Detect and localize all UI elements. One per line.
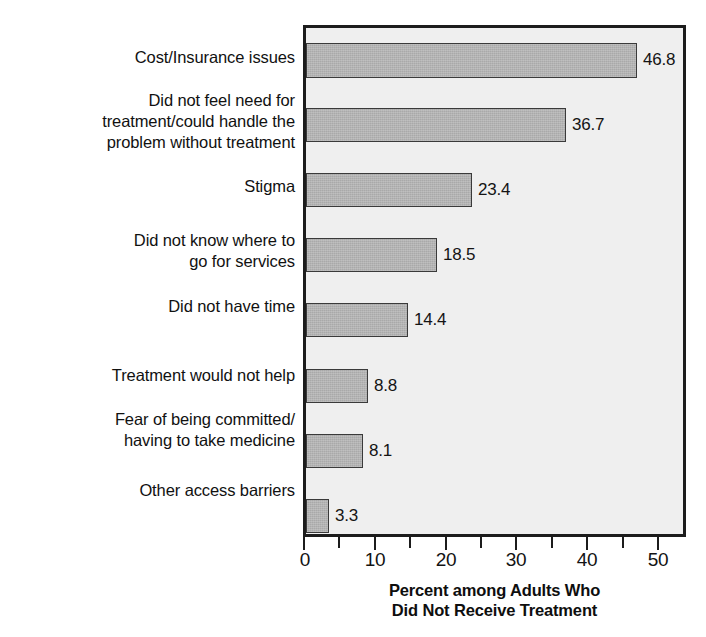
x-ticklabel-30: 30: [506, 549, 527, 571]
bar-value-label: 36.7: [572, 115, 604, 135]
category-label-did-not-know-where: Did not know where to go for services: [0, 230, 295, 272]
plot-inner: 46.8 36.7 23.4 18.5 14.4 8.8 8.1 3.3: [306, 28, 683, 534]
bar-fear-of-being-committed: [306, 434, 363, 468]
bar-value-label: 14.4: [414, 310, 446, 330]
x-tick-35: [551, 537, 553, 548]
category-label-stigma: Stigma: [0, 176, 295, 197]
bar-cost-insurance-issues: [306, 43, 637, 78]
category-label-did-not-have-time: Did not have time: [0, 296, 295, 317]
bar-value-label: 8.8: [374, 376, 397, 396]
bar-did-not-feel-need: [306, 108, 566, 142]
x-ticklabel-20: 20: [436, 549, 457, 571]
plot-area: 46.8 36.7 23.4 18.5 14.4 8.8 8.1 3.3: [303, 25, 686, 537]
x-ticklabel-40: 40: [577, 549, 598, 571]
x-tick-25: [480, 537, 482, 548]
x-ticklabel-0: 0: [300, 549, 310, 571]
bar-other-access-barriers: [306, 499, 329, 533]
category-axis-labels: Cost/Insurance issues Did not feel need …: [0, 0, 295, 537]
bar-chart: Cost/Insurance issues Did not feel need …: [0, 0, 706, 637]
bar-value-label: 23.4: [478, 180, 510, 200]
bar-did-not-know-where: [306, 238, 437, 272]
bar-value-label: 18.5: [443, 245, 475, 265]
category-label-other-access-barriers: Other access barriers: [0, 480, 295, 501]
x-ticklabel-50: 50: [648, 549, 669, 571]
x-ticklabel-10: 10: [365, 549, 386, 571]
bar-treatment-would-not-help: [306, 369, 368, 403]
bar-stigma: [306, 173, 472, 207]
x-tick-45: [622, 537, 624, 548]
x-tick-15: [409, 537, 411, 548]
x-tick-5: [338, 537, 340, 548]
category-label-treatment-would-not-help: Treatment would not help: [0, 365, 295, 386]
x-axis-title: Percent among Adults Who Did Not Receive…: [303, 580, 686, 620]
category-label-fear-of-being-committed: Fear of being committed/ having to take …: [0, 409, 295, 451]
bar-value-label: 46.8: [643, 50, 675, 70]
category-label-did-not-feel-need: Did not feel need for treatment/could ha…: [0, 90, 295, 153]
bar-value-label: 3.3: [335, 506, 358, 526]
category-label-cost-insurance-issues: Cost/Insurance issues: [0, 47, 295, 68]
bar-value-label: 8.1: [369, 441, 392, 461]
x-axis-tick-labels: 0 10 20 30 40 50: [303, 549, 686, 573]
bar-did-not-have-time: [306, 303, 408, 337]
